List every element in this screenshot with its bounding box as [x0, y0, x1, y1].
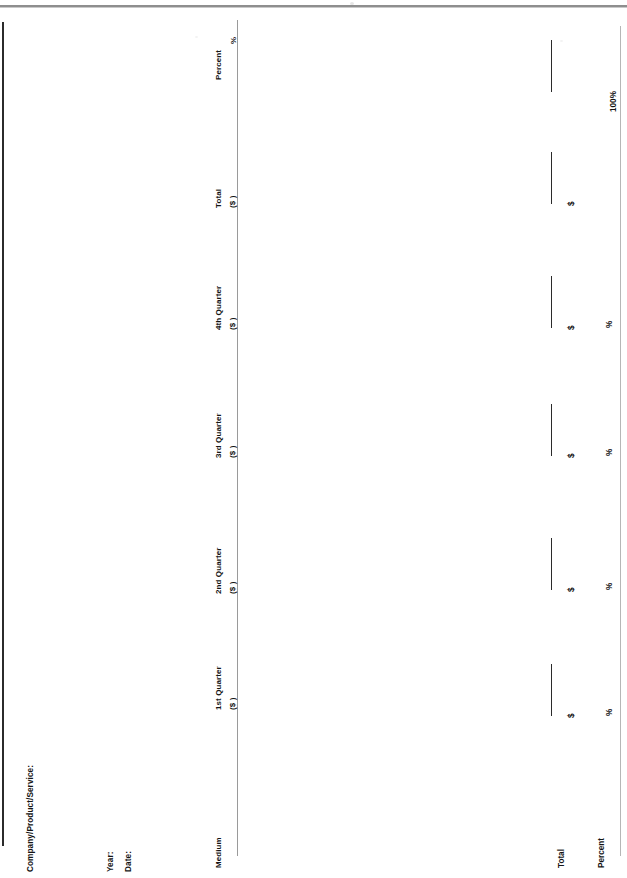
field-label-year: Year: [107, 851, 115, 872]
table-column-header-percent-unit: % [230, 37, 238, 44]
total-marker-q1: $ [568, 713, 576, 718]
total-marker-q3: $ [568, 453, 576, 458]
percent-marker-total: 100% [610, 91, 618, 112]
table-column-header-q2-title: 2nd Quarter [215, 548, 223, 594]
table-bottom-rule [620, 26, 621, 856]
table-column-header-total-unit: ($ ) [229, 196, 237, 208]
scan-speckle [195, 36, 198, 38]
total-fill-rule-q3[interactable] [551, 404, 552, 456]
total-marker-q2: $ [568, 587, 576, 592]
table-column-header-q4-unit: ($ ) [229, 318, 237, 330]
field-label-date: Date: [125, 851, 133, 872]
percent-marker-q1: % [606, 709, 614, 716]
summary-row-label-total: Total [558, 849, 566, 868]
table-column-header-q1-unit: ($ ) [229, 698, 237, 710]
table-column-header-medium: Medium [215, 837, 223, 868]
field-label-company: Company/Product/Service: [27, 765, 35, 872]
table-column-header-total-title: Total [215, 189, 223, 208]
table-column-header-q3-unit: ($ ) [229, 446, 237, 458]
percent-marker-q4: % [606, 321, 614, 328]
scan-speckle [350, 2, 354, 5]
total-fill-rule-q1[interactable] [551, 664, 552, 716]
total-fill-rule-q4[interactable] [551, 276, 552, 328]
scanned-page: Company/Product/Service: Year: Date: Med… [0, 0, 627, 878]
scan-edge-rule-shadow [0, 7, 627, 8]
summary-row-label-percent: Percent [598, 838, 606, 868]
header-separator-rule [237, 20, 238, 856]
total-marker-q4: $ [568, 325, 576, 330]
total-marker-total: $ [568, 201, 576, 206]
table-column-header-percent-title: Percent [215, 50, 223, 80]
percent-marker-q2: % [606, 583, 614, 590]
percent-marker-q3: % [606, 449, 614, 456]
total-fill-rule-percent[interactable] [551, 40, 552, 92]
total-fill-rule-total[interactable] [551, 152, 552, 204]
total-fill-rule-q2[interactable] [551, 538, 552, 590]
table-column-header-q2-unit: ($ ) [229, 582, 237, 594]
table-column-header-q3-title: 3rd Quarter [215, 413, 223, 458]
page-border-rule [2, 22, 4, 846]
table-column-header-q4-title: 4th Quarter [215, 286, 223, 330]
table-column-header-q1-title: 1st Quarter [215, 666, 223, 710]
scan-speckle [560, 40, 563, 42]
